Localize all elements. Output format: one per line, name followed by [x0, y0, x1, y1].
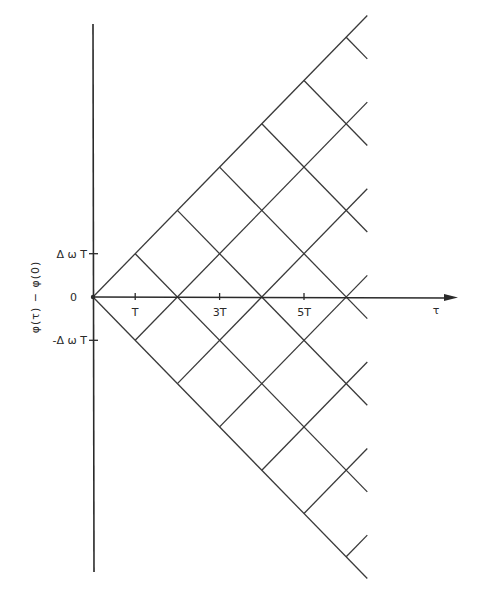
y-axis-label: φ(τ) − φ(0) — [29, 261, 42, 334]
envelope-upper — [93, 16, 367, 297]
phase-lattice-diagram: T3T5TΔ ω T0-Δ ω T τ φ(τ) − φ(0) — [0, 0, 484, 606]
lattice-line-ascending — [135, 102, 367, 340]
lattice-line-descending — [304, 81, 367, 146]
lattice-line-descending — [346, 37, 367, 59]
origin-dot — [91, 295, 95, 299]
lattice-line-ascending — [262, 362, 368, 470]
x-axis — [93, 297, 450, 298]
lattice-line-ascending — [304, 449, 367, 514]
lattice-line-ascending — [346, 535, 367, 557]
x-axis-arrowhead-icon — [444, 294, 458, 301]
y-tick-label: -Δ ω T — [53, 334, 88, 347]
x-axis-label: τ — [433, 304, 440, 317]
lattice-line-descending — [177, 210, 367, 405]
x-tick-label: T — [131, 306, 139, 319]
envelope-lower — [93, 297, 367, 578]
y-tick-label: Δ ω T — [57, 248, 88, 261]
lattice-line-descending — [262, 124, 368, 232]
y-tick-label: 0 — [70, 291, 77, 304]
lattice-line-descending — [135, 254, 367, 492]
x-tick-label: 5T — [297, 306, 311, 319]
lattice-line-descending — [220, 167, 368, 319]
x-tick-label: 3T — [213, 306, 227, 319]
lattice-line-ascending — [177, 189, 367, 384]
